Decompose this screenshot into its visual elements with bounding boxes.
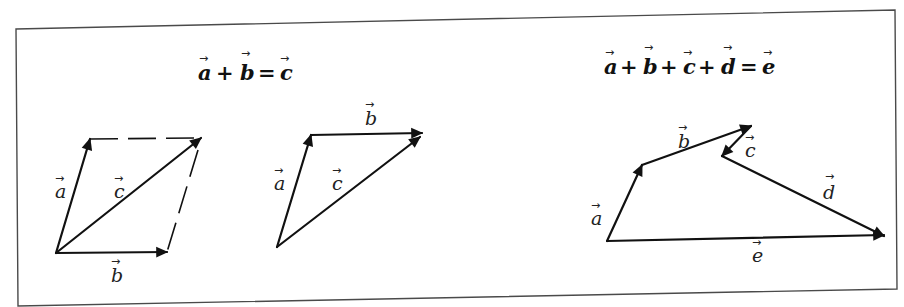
vector-b-arrow bbox=[56, 252, 167, 253]
vector-arrow-icon: → bbox=[274, 164, 283, 177]
vector-arrow-icon: → bbox=[591, 199, 600, 212]
eq2-term-d: d bbox=[721, 54, 736, 79]
vector-d-arrow bbox=[722, 156, 884, 236]
vector-arrow-icon: → bbox=[114, 172, 123, 185]
vector-b-arrow bbox=[311, 133, 422, 135]
vector-arrow-icon: → bbox=[55, 172, 64, 185]
vector-arrow-icon: → bbox=[644, 41, 653, 54]
equation-a-b-c-d-equals-e: a → + b → + c → + d → = e → bbox=[604, 41, 775, 79]
vector-arrow-icon: → bbox=[763, 46, 772, 59]
vector-arrow-icon: → bbox=[605, 46, 614, 59]
vector-c-arrow bbox=[56, 138, 201, 253]
eq2-term-b: b bbox=[643, 54, 658, 79]
vector-arrow-icon: → bbox=[683, 46, 692, 59]
eq1-term-b: b bbox=[240, 60, 255, 85]
vector-arrow-icon: → bbox=[241, 47, 250, 60]
vector-arrow-icon: → bbox=[678, 121, 687, 134]
vector-addition-diagram: a → + b → = c → a → + b → + c → + d → = … bbox=[0, 0, 904, 307]
dashed-construction-line-top bbox=[90, 138, 198, 139]
vector-arrow-icon: → bbox=[365, 98, 374, 111]
vector-arrow-icon: → bbox=[752, 236, 761, 249]
eq2-plus-2: + bbox=[660, 54, 678, 79]
eq1-plus: + bbox=[216, 60, 234, 85]
eq2-equals: = bbox=[740, 54, 758, 79]
vector-b-arrow bbox=[642, 126, 751, 165]
triangle-panel: a → c → b → bbox=[274, 98, 422, 247]
vector-arrow-icon: → bbox=[199, 52, 208, 65]
dashed-construction-line-right bbox=[167, 150, 198, 252]
vector-arrow-icon: → bbox=[111, 255, 120, 268]
vector-e-arrow bbox=[607, 235, 884, 241]
parallelogram-panel: a → c → b → bbox=[55, 138, 201, 286]
vector-arrow-icon: → bbox=[332, 164, 341, 177]
vector-arrow-icon: → bbox=[745, 131, 754, 144]
polygon-panel: a → b → c → d → e → bbox=[591, 121, 884, 266]
equation-a-plus-b-equals-c: a → + b → = c → bbox=[198, 47, 293, 85]
vector-c-arrow bbox=[277, 137, 420, 247]
vector-arrow-icon: → bbox=[825, 170, 834, 183]
vector-arrow-icon: → bbox=[723, 41, 732, 54]
eq2-plus-3: + bbox=[698, 54, 716, 79]
vector-arrow-icon: → bbox=[280, 52, 289, 65]
eq2-plus-1: + bbox=[620, 54, 638, 79]
eq1-equals: = bbox=[258, 60, 276, 85]
vector-a-arrow bbox=[607, 165, 642, 241]
label-d: d bbox=[823, 181, 835, 203]
